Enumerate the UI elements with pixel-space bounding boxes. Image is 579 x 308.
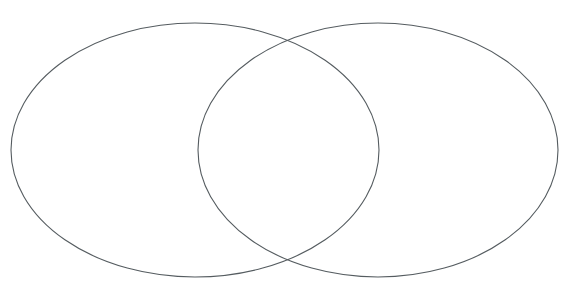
diagram-background (0, 0, 579, 308)
venn-diagram-figure (0, 0, 579, 308)
venn-diagram-canvas (0, 0, 579, 308)
